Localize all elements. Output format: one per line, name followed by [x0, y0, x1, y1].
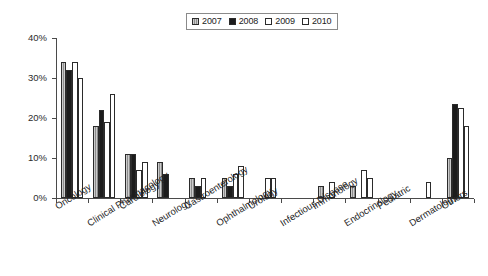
x-tick — [217, 199, 218, 203]
plot-area: 0%10%20%30%40% — [56, 38, 474, 198]
x-tick — [88, 199, 89, 203]
legend-item-2008: 2008 — [229, 16, 259, 27]
x-tick — [442, 199, 443, 203]
bar-chart: 2007 2008 2009 2010 0%10%20%30%40% Oncol… — [0, 0, 488, 276]
x-tick — [185, 199, 186, 203]
bar-group — [318, 38, 340, 198]
bar-group — [222, 38, 244, 198]
y-tick-label: 0% — [33, 192, 47, 203]
legend-label-2009: 2009 — [275, 16, 295, 27]
x-tick — [120, 199, 121, 203]
x-tick — [152, 199, 153, 203]
bar-2010 — [78, 78, 84, 198]
y-tick: 40% — [52, 38, 56, 39]
bar-2007 — [318, 186, 324, 198]
legend-label-2008: 2008 — [239, 16, 259, 27]
legend-item-2007: 2007 — [192, 16, 222, 27]
x-tick — [345, 199, 346, 203]
bar-group — [61, 38, 83, 198]
bar-2010 — [367, 178, 373, 198]
x-tick — [378, 199, 379, 203]
legend-item-2009: 2009 — [265, 16, 295, 27]
legend-swatch-2007 — [192, 18, 199, 25]
y-tick-label: 20% — [28, 112, 47, 123]
legend-swatch-2009 — [265, 18, 272, 25]
y-tick-label: 40% — [28, 32, 47, 43]
bar-group — [415, 38, 437, 198]
chart-legend: 2007 2008 2009 2010 — [186, 13, 338, 30]
bar-group — [382, 38, 404, 198]
y-tick: 20% — [52, 118, 56, 119]
bar-group — [189, 38, 211, 198]
bar-2008 — [163, 174, 169, 198]
bar-2010 — [238, 166, 244, 198]
bar-2010 — [464, 126, 470, 198]
legend-item-2010: 2010 — [302, 16, 332, 27]
x-tick — [249, 199, 250, 203]
legend-swatch-2010 — [302, 18, 309, 25]
bar-2009 — [201, 178, 207, 198]
x-tick — [410, 199, 411, 203]
bar-group — [157, 38, 179, 198]
y-tick-label: 30% — [28, 72, 47, 83]
bar-2009 — [329, 182, 335, 198]
legend-label-2010: 2010 — [312, 16, 332, 27]
y-tick-label: 10% — [28, 152, 47, 163]
bar-group — [286, 38, 308, 198]
x-axis-line — [56, 198, 474, 199]
x-tick — [281, 199, 282, 203]
bar-group — [254, 38, 276, 198]
y-tick: 10% — [52, 158, 56, 159]
bar-2010 — [142, 162, 148, 198]
bar-2010 — [271, 178, 277, 198]
x-tick — [313, 199, 314, 203]
x-tick — [56, 199, 57, 203]
legend-label-2007: 2007 — [202, 16, 222, 27]
bar-2007 — [350, 186, 356, 198]
bar-group — [447, 38, 469, 198]
y-axis-line — [56, 38, 57, 199]
bar-2010 — [110, 94, 116, 198]
legend-swatch-2008 — [229, 18, 236, 25]
bar-group — [350, 38, 372, 198]
bar-group — [125, 38, 147, 198]
x-tick — [474, 199, 475, 203]
bar-group — [93, 38, 115, 198]
bar-2009 — [426, 182, 432, 198]
y-tick: 30% — [52, 78, 56, 79]
